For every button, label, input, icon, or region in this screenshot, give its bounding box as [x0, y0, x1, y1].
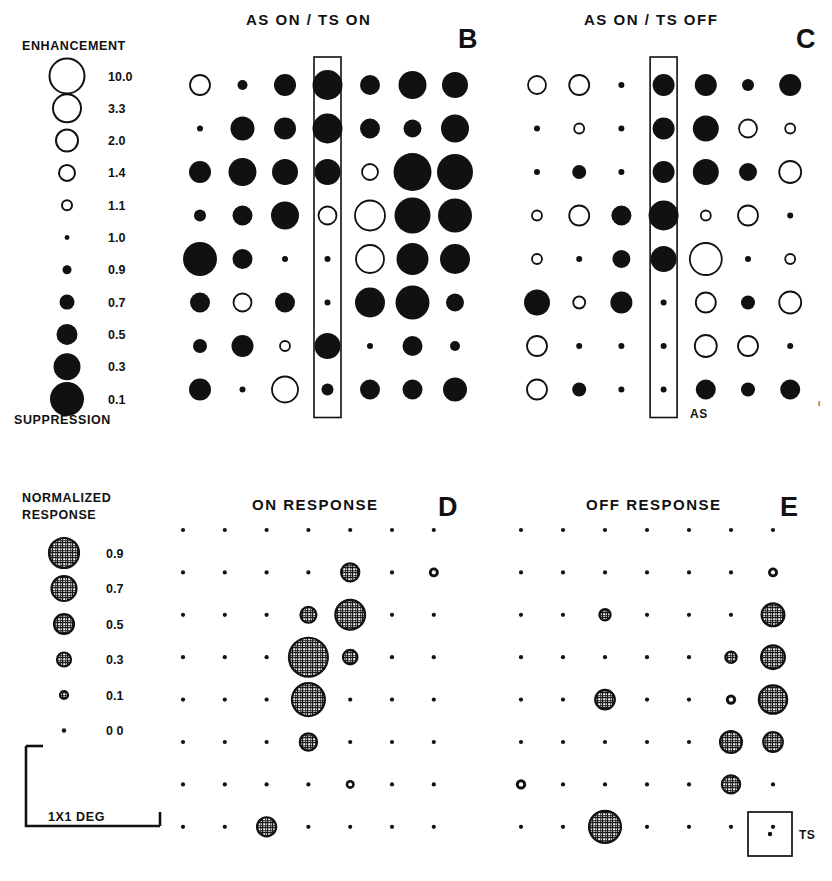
- data-marker-core: [729, 697, 733, 701]
- data-marker: [390, 655, 394, 659]
- data-marker: [432, 655, 436, 659]
- normalized-value-0-1: 0.1: [106, 689, 123, 703]
- data-marker: [390, 825, 394, 829]
- panel-c-letter: C: [796, 24, 816, 54]
- data-marker: [240, 387, 246, 393]
- data-marker: [432, 825, 436, 829]
- data-marker: [275, 293, 295, 313]
- enhancement-value-1-4: 1.4: [108, 166, 125, 180]
- data-marker: [779, 161, 801, 183]
- data-marker: [404, 120, 422, 138]
- data-marker: [687, 825, 691, 829]
- data-marker: [189, 161, 211, 183]
- data-marker: [272, 159, 298, 185]
- data-marker: [229, 158, 257, 186]
- data-marker: [519, 825, 523, 829]
- data-marker-core: [348, 783, 352, 787]
- data-marker: [603, 782, 607, 786]
- data-marker: [181, 655, 185, 659]
- data-marker: [319, 207, 337, 225]
- data-marker: [432, 613, 436, 617]
- data-marker: [300, 733, 317, 750]
- normalized-swatch-0-9: [49, 538, 79, 568]
- data-marker: [265, 782, 269, 786]
- enhancement-swatch-2-0: [56, 130, 78, 152]
- data-marker: [190, 75, 210, 95]
- data-marker: [722, 775, 740, 793]
- data-marker: [442, 72, 468, 98]
- data-marker: [696, 293, 716, 313]
- data-marker: [649, 201, 679, 231]
- data-marker: [234, 294, 252, 312]
- data-marker: [265, 740, 269, 744]
- data-marker: [438, 199, 472, 233]
- panel-c-title: AS ON / TS OFF: [584, 11, 718, 28]
- data-marker: [360, 119, 380, 139]
- data-marker: [645, 528, 649, 532]
- enhancement-legend: ENHANCEMENT 10.03.32.01.41.11.00.90.70.5…: [14, 39, 132, 427]
- data-marker: [561, 825, 565, 829]
- data-marker: [360, 380, 380, 400]
- data-marker: [779, 74, 801, 96]
- data-marker: [181, 698, 185, 702]
- data-marker: [223, 698, 227, 702]
- data-marker: [599, 609, 610, 620]
- data-marker: [519, 613, 523, 617]
- data-marker: [394, 153, 432, 191]
- data-marker: [395, 198, 431, 234]
- data-marker: [432, 782, 436, 786]
- normalized-value-0-9: 0.9: [106, 547, 123, 561]
- data-marker: [322, 384, 334, 396]
- panel-d-title: ON RESPONSE: [252, 496, 379, 513]
- data-marker: [701, 211, 711, 221]
- data-marker: [532, 254, 542, 264]
- data-marker: [762, 603, 785, 626]
- normalized-response-legend: NORMALIZED RESPONSE 0.90.70.50.30.10 0: [22, 491, 123, 738]
- enhancement-value-3-3: 3.3: [108, 102, 125, 116]
- data-marker: [397, 243, 429, 275]
- data-marker: [687, 698, 691, 702]
- data-marker: [618, 343, 624, 349]
- data-marker: [231, 117, 255, 141]
- data-marker: [313, 114, 343, 144]
- data-marker: [603, 570, 607, 574]
- data-marker: [645, 698, 649, 702]
- data-marker: [223, 655, 227, 659]
- panel-e-letter: E: [780, 492, 798, 522]
- data-marker: [335, 600, 365, 630]
- enhancement-legend-header: ENHANCEMENT: [22, 39, 126, 53]
- data-marker: [348, 698, 352, 702]
- as-marker-label: AS: [690, 407, 708, 421]
- enhancement-swatch-0-5: [57, 324, 78, 345]
- data-marker: [603, 528, 607, 532]
- data-marker: [362, 164, 378, 180]
- data-marker: [390, 528, 394, 532]
- data-marker: [687, 782, 691, 786]
- data-marker: [690, 243, 722, 275]
- data-marker: [271, 202, 299, 230]
- data-marker: [306, 782, 310, 786]
- enhancement-value-2-0: 2.0: [108, 134, 125, 148]
- ts-box: TS: [748, 812, 815, 856]
- data-marker: [785, 254, 795, 264]
- data-marker: [759, 685, 787, 713]
- data-marker: [280, 341, 290, 351]
- enhancement-value-0-7: 0.7: [108, 296, 125, 310]
- data-marker: [589, 811, 621, 843]
- data-marker: [325, 256, 331, 262]
- data-marker: [282, 256, 288, 262]
- panel-b-title: AS ON / TS ON: [246, 11, 371, 28]
- data-marker: [181, 825, 185, 829]
- data-marker: [771, 782, 775, 786]
- data-marker: [645, 740, 649, 744]
- data-marker: [450, 341, 460, 351]
- data-marker: [528, 76, 546, 94]
- scale-bar: 1X1 DEG: [26, 746, 160, 826]
- data-marker: [257, 817, 276, 836]
- normalized-value-0-7: 0.7: [106, 582, 123, 596]
- data-marker: [695, 335, 717, 357]
- data-marker: [181, 570, 185, 574]
- data-marker: [534, 169, 540, 175]
- data-marker: [576, 343, 582, 349]
- data-marker: [306, 825, 310, 829]
